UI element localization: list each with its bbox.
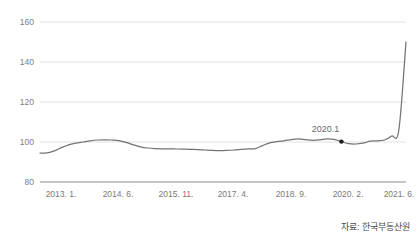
annotation-marker-dot: [339, 139, 343, 143]
y-tick-80: 80: [25, 177, 35, 187]
y-axis-labels: 160 140 120 100 80: [20, 17, 34, 187]
x-tick-0: 2013. 1.: [46, 189, 77, 199]
x-tick-5: 2020. 2.: [333, 189, 364, 199]
y-tick-140: 140: [20, 57, 34, 67]
x-tick-1: 2014. 6.: [103, 189, 134, 199]
line-chart: 160 140 120 100 80 2013. 1. 2014. 6. 201…: [0, 0, 418, 240]
x-tick-6: 2021. 6.: [384, 189, 415, 199]
source-note: 자료: 한국부동산원: [341, 220, 410, 233]
y-tick-160: 160: [20, 17, 34, 27]
x-tick-2: 2015. 11.: [159, 189, 194, 199]
x-axis-labels: 2013. 1. 2014. 6. 2015. 11. 2017. 4. 201…: [46, 189, 415, 199]
y-tick-120: 120: [20, 97, 34, 107]
x-tick-4: 2018. 9.: [276, 189, 307, 199]
y-tick-100: 100: [20, 137, 34, 147]
chart-container: 160 140 120 100 80 2013. 1. 2014. 6. 201…: [0, 0, 418, 240]
x-tick-3: 2017. 4.: [218, 189, 249, 199]
data-series-line: [40, 42, 406, 153]
annotation-label: 2020.1: [312, 124, 340, 134]
gridlines: [40, 22, 406, 182]
